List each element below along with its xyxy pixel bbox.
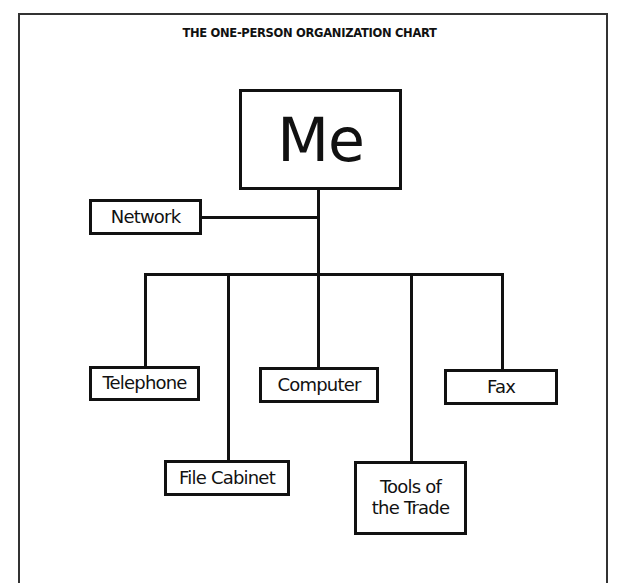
- node-telephone: Telephone: [89, 366, 200, 401]
- node-telephone-label: Telephone: [102, 373, 186, 394]
- connector-drop-fax: [501, 273, 504, 371]
- node-file-cabinet-label: File Cabinet: [179, 468, 275, 489]
- node-network: Network: [89, 199, 202, 235]
- connector-drop-file-cabinet: [227, 273, 230, 462]
- node-network-label: Network: [111, 207, 181, 228]
- connector-drop-telephone: [144, 273, 147, 368]
- connector-bus: [144, 273, 504, 276]
- node-fax-label: Fax: [487, 377, 515, 398]
- node-me: Me: [239, 89, 402, 190]
- node-computer-label: Computer: [277, 375, 360, 396]
- connector-drop-computer: [317, 273, 320, 369]
- node-tools-of-the-trade: Tools of the Trade: [354, 461, 467, 535]
- connector-drop-tools: [410, 273, 413, 463]
- connector-trunk: [317, 189, 320, 276]
- node-me-label: Me: [277, 110, 364, 170]
- connector-network: [201, 216, 319, 219]
- node-file-cabinet: File Cabinet: [164, 460, 290, 496]
- node-fax: Fax: [444, 369, 558, 405]
- node-computer: Computer: [259, 367, 379, 403]
- node-tools-label-line1: Tools of: [380, 477, 441, 498]
- chart-title: THE ONE-PERSON ORGANIZATION CHART: [0, 26, 619, 40]
- node-tools-label-line2: the Trade: [372, 498, 449, 519]
